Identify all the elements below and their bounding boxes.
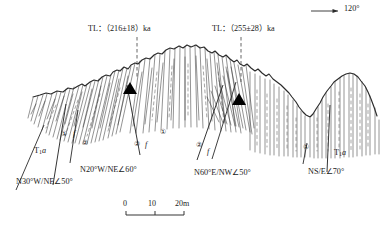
bedding-hatch-valley-dashed <box>257 88 368 151</box>
bedding-hatch-valley-floor <box>250 72 379 158</box>
formation-label-left: T1a <box>34 147 46 156</box>
fault-line-right-hill <box>327 105 330 172</box>
unit-marker-1-far-right: ① <box>303 144 309 151</box>
scale-tick-20: 20m <box>175 200 189 208</box>
scale-bar <box>126 211 184 215</box>
unit-marker-1-mid: ① <box>160 129 166 136</box>
formation-label-right: T1a <box>334 149 346 158</box>
unit-marker-2-left: ② <box>82 140 88 147</box>
formation-suffix-right: a <box>342 148 346 157</box>
attitude-label-1: N30°W/NE∠50° <box>16 178 73 186</box>
formation-suffix-left: a <box>42 146 46 155</box>
azimuth-label: 120° <box>344 5 360 13</box>
scale-tick-0: 0 <box>123 200 127 208</box>
attitude-label-2: N20°W/NE∠60° <box>80 166 137 174</box>
geological-cross-section-figure: 120° TL：（216±18）ka TL：（255±28）ka T1a T1a… <box>0 0 381 229</box>
sample-marker-west-icon <box>123 82 137 94</box>
fault-label-left: f <box>73 130 75 138</box>
unit-marker-2-mid: ② <box>134 141 140 148</box>
tl-label-west: TL：（216±18）ka <box>88 25 151 33</box>
bedding-hatch-left-limb <box>28 63 135 144</box>
tl-label-east: TL：（255±28）ka <box>212 25 275 33</box>
unit-marker-2-right: ② <box>196 142 202 149</box>
scale-tick-10: 10 <box>148 200 156 208</box>
unit-marker-1-left: ① <box>61 131 67 138</box>
fault-line-f1 <box>53 104 66 185</box>
attitude-label-3: N60°E/NW∠50° <box>194 169 251 177</box>
cross-section-drawing <box>0 0 381 229</box>
fault-label-mid: f <box>145 141 147 149</box>
attitude-label-4: NS/E∠70° <box>308 168 344 176</box>
fault-label-right: f <box>207 148 209 156</box>
fault-line-f3-secondary <box>212 82 236 159</box>
azimuth-arrow-icon <box>311 9 338 13</box>
